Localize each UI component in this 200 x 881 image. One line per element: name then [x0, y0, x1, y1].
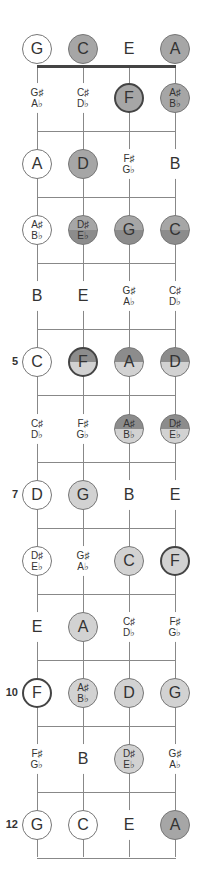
- note-label: G♭: [77, 429, 90, 440]
- note-label: B♭: [77, 693, 89, 704]
- note-C-string-fret-7: G: [68, 480, 98, 510]
- note-C-string-fret-2: D: [68, 149, 98, 179]
- note-label: D♯: [31, 550, 43, 561]
- note-G-string-fret-12: G: [22, 810, 52, 840]
- note-C-string-fret-8: G♯A♭: [68, 546, 98, 576]
- note-label: C: [169, 222, 181, 238]
- fret-line-2: [37, 197, 176, 198]
- note-E-string-fret-4: G♯A♭: [114, 281, 144, 311]
- fret-line-11: [37, 792, 176, 793]
- note-label: G: [77, 487, 89, 503]
- note-A-string-fret-5: D: [160, 347, 190, 377]
- note-label: E♭: [77, 230, 89, 241]
- note-label: A♭: [169, 759, 181, 770]
- note-label: F♯: [31, 748, 42, 759]
- note-A-string-fret-10: G: [160, 678, 190, 708]
- note-label: G♭: [123, 164, 136, 175]
- note-label: D: [169, 354, 181, 370]
- note-label: A♭: [31, 98, 43, 109]
- note-E-string-fret-6: A♯B♭: [114, 414, 144, 444]
- note-label: A: [170, 817, 181, 833]
- note-label: G♯: [169, 748, 182, 759]
- note-C-string-fret-9: A: [68, 612, 98, 642]
- note-label: D♭: [77, 98, 89, 109]
- note-label: E♭: [169, 429, 181, 440]
- note-label: B♭: [123, 429, 135, 440]
- note-label: G: [31, 817, 43, 833]
- note-G-string-fret-8: D♯E♭: [22, 546, 52, 576]
- note-G-string-fret-3: A♯B♭: [22, 215, 52, 245]
- fret-line-9: [37, 660, 176, 661]
- note-A-string-fret-12: A: [160, 810, 190, 840]
- note-label: A♯: [123, 418, 135, 429]
- note-label: D♯: [169, 418, 181, 429]
- note-label: D: [31, 487, 43, 503]
- note-label: B: [78, 751, 89, 767]
- fret-line-10: [37, 726, 176, 727]
- fret-line-3: [37, 263, 176, 264]
- note-E-string-fret-10: D: [114, 678, 144, 708]
- note-label: C: [123, 553, 135, 569]
- note-label: B♭: [169, 98, 181, 109]
- note-E-string-fret-11: D♯E♭: [114, 744, 144, 774]
- note-label: D♭: [31, 429, 43, 440]
- note-E-string-fret-8: C: [114, 546, 144, 576]
- note-G-string-fret-4: B: [22, 281, 52, 311]
- fret-line-8: [37, 594, 176, 595]
- note-A-string-fret-2: B: [160, 149, 190, 179]
- note-A-string-fret-6: D♯E♭: [160, 414, 190, 444]
- note-label: A: [32, 156, 43, 172]
- note-C-string-fret-3: D♯E♭: [68, 215, 98, 245]
- note-label: G♯: [31, 87, 44, 98]
- note-label: C: [77, 41, 89, 57]
- fret-line-7: [37, 528, 176, 529]
- note-E-string-fret-9: C♯D♭: [114, 612, 144, 642]
- nut: [37, 65, 176, 68]
- note-label: C♯: [77, 87, 89, 98]
- note-label: C♯: [123, 616, 135, 627]
- note-A-string-fret-11: G♯A♭: [160, 744, 190, 774]
- note-A-string-fret-9: F♯G♭: [160, 612, 190, 642]
- note-G-string-fret-10: F: [22, 678, 52, 708]
- note-E-string-fret-2: F♯G♭: [114, 149, 144, 179]
- note-G-string-fret-11: F♯G♭: [22, 744, 52, 774]
- note-E-string-fret-12: E: [114, 810, 144, 840]
- fret-line-1: [37, 131, 176, 132]
- note-label: C: [31, 354, 43, 370]
- note-label: D♯: [77, 219, 89, 230]
- note-label: B: [32, 288, 43, 304]
- note-label: A♭: [123, 296, 135, 307]
- note-label: A: [78, 619, 89, 635]
- fret-number-5: 5: [0, 355, 18, 367]
- note-A-string-fret-3: C: [160, 215, 190, 245]
- note-label: D: [123, 685, 135, 701]
- note-label: A♭: [77, 561, 89, 572]
- note-A-string-fret-8: F: [160, 546, 190, 576]
- note-label: D♭: [169, 296, 181, 307]
- fret-number-10: 10: [0, 686, 18, 698]
- note-label: A♯: [77, 682, 89, 693]
- note-C-string-fret-10: A♯B♭: [68, 678, 98, 708]
- fret-line-5: [37, 395, 176, 396]
- note-C-string-fret-6: F♯G♭: [68, 414, 98, 444]
- note-G-string-fret-7: D: [22, 480, 52, 510]
- fret-number-12: 12: [0, 818, 18, 830]
- note-label: F♯: [169, 616, 180, 627]
- note-label: E♭: [31, 561, 43, 572]
- note-label: F♯: [123, 153, 134, 164]
- note-E-string-fret-1: F: [114, 83, 144, 113]
- note-G-string-fret-2: A: [22, 149, 52, 179]
- note-C-string-fret-12: C: [68, 810, 98, 840]
- note-C-string-fret-4: E: [68, 281, 98, 311]
- note-A-string-fret-7: E: [160, 480, 190, 510]
- note-A-string-fret-1: A♯B♭: [160, 83, 190, 113]
- note-label: E: [170, 487, 181, 503]
- note-label: D♯: [123, 748, 135, 759]
- note-label: G: [123, 222, 135, 238]
- note-A-string-fret-0: A: [160, 34, 190, 64]
- note-label: B♭: [31, 230, 43, 241]
- note-label: E: [124, 817, 135, 833]
- note-label: A: [124, 354, 135, 370]
- note-label: G♯: [123, 285, 136, 296]
- note-G-string-fret-9: E: [22, 612, 52, 642]
